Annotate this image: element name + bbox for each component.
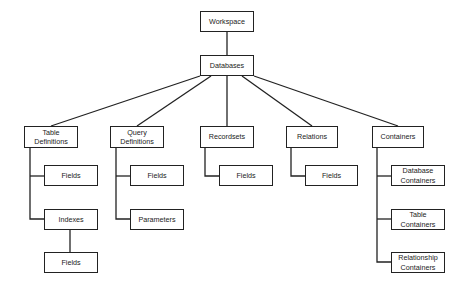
node-workspace: Workspace bbox=[200, 11, 254, 32]
node-query-definitions: Query Definitions bbox=[110, 126, 164, 148]
node-relations-fields: Fields bbox=[305, 165, 358, 186]
node-recordsets-fields: Fields bbox=[219, 165, 273, 186]
node-relations: Relations bbox=[286, 126, 338, 148]
node-relationship-containers: Relationship Containers bbox=[391, 252, 445, 273]
node-databases: Databases bbox=[200, 55, 254, 76]
node-indexes-fields: Fields bbox=[44, 252, 98, 273]
node-table-containers: Table Containers bbox=[391, 209, 445, 230]
node-indexes: Indexes bbox=[44, 209, 98, 230]
node-recordsets: Recordsets bbox=[200, 126, 254, 148]
node-parameters: Parameters bbox=[130, 209, 184, 230]
node-table-definitions-fields: Fields bbox=[44, 165, 98, 186]
node-query-definitions-fields: Fields bbox=[130, 165, 184, 186]
node-table-definitions: Table Definitions bbox=[24, 126, 78, 148]
node-database-containers: Database Containers bbox=[391, 165, 445, 186]
node-containers: Containers bbox=[372, 126, 424, 148]
